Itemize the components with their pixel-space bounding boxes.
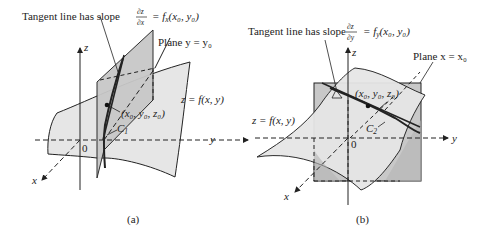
surface-label-a: z = f(x, y) xyxy=(180,93,224,106)
leader-plane-b xyxy=(420,62,433,83)
tangent-label-b: Tangent line has slope xyxy=(248,25,346,37)
panel-a: Tangent line has slope ∂z ∂x = fx(x₀, y₀… xyxy=(22,7,248,226)
leader-tangent-a xyxy=(100,16,118,72)
panel-b: Tangent line has slope ∂z ∂y = fy(x₀, y₀… xyxy=(248,22,467,226)
plane-label-a: Plane y = y₀ xyxy=(158,36,212,48)
frac-den-b: ∂y xyxy=(347,33,355,42)
frac-num-b: ∂z xyxy=(347,22,354,31)
point-b xyxy=(366,104,371,109)
frac-den-a: ∂x xyxy=(137,18,145,27)
origin-label-a: 0 xyxy=(82,142,88,154)
point-a xyxy=(105,103,110,108)
partial-derivative-figure: Tangent line has slope ∂z ∂x = fx(x₀, y₀… xyxy=(0,0,492,231)
x-axis-label-a: x xyxy=(31,174,37,186)
frac-num-a: ∂z xyxy=(137,7,144,16)
point-label-b: (x₀, y₀, z₀) xyxy=(355,87,399,100)
y-axis-label-a: y xyxy=(209,133,215,145)
origin-label-b: 0 xyxy=(351,138,357,150)
z-axis-label-b: z xyxy=(351,46,357,58)
rhs-b: = fy(x₀, y₀) xyxy=(363,25,410,39)
y-axis-label-b: y xyxy=(451,132,457,144)
tangent-label-a: Tangent line has slope xyxy=(22,10,120,22)
plane-label-b: Plane x = x₀ xyxy=(413,50,467,62)
point-label-a: (x₀, y₀, z₀) xyxy=(121,107,165,120)
rhs-a: = fx(x₀, y₀) xyxy=(152,10,199,24)
caption-a: (a) xyxy=(127,213,140,226)
z-axis-label-a: z xyxy=(83,41,89,53)
x-axis-label-b: x xyxy=(283,190,289,202)
surface-label-b: z = f(x, y) xyxy=(251,114,295,127)
caption-b: (b) xyxy=(356,213,369,226)
